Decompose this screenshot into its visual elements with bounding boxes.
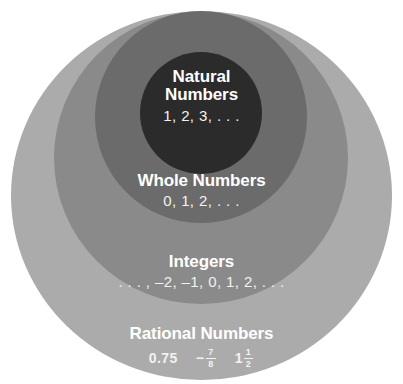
fraction: 78: [206, 348, 215, 369]
number-sets-diagram: Natural Numbers 1, 2, 3, . . . Whole Num…: [0, 0, 403, 384]
rational-example-decimal: 0.75: [149, 351, 178, 366]
label-whole-numbers: Whole Numbers 0, 1, 2, . . .: [0, 172, 403, 210]
label-rational-numbers: Rational Numbers 0.75−78112: [0, 325, 403, 369]
rational-example-fraction: −78: [196, 348, 217, 369]
label-natural-numbers: Natural Numbers 1, 2, 3, . . .: [0, 68, 403, 124]
label-integers-title: Integers: [0, 253, 403, 271]
rational-example-mixed-number: 112: [235, 348, 255, 369]
fraction-denominator: 2: [244, 359, 253, 369]
label-rational-numbers-examples: 0.75−78112: [0, 348, 403, 369]
rational-example-values: 0.75−78112: [140, 348, 263, 369]
fraction: 12: [244, 348, 253, 369]
label-integers: Integers . . . , –2, –1, 0, 1, 2, . . .: [0, 253, 403, 291]
fraction-numerator: 1: [244, 348, 253, 359]
label-rational-numbers-title: Rational Numbers: [0, 325, 403, 343]
label-whole-numbers-examples: 0, 1, 2, . . .: [0, 193, 403, 209]
label-whole-numbers-title: Whole Numbers: [0, 172, 403, 190]
mixed-number-whole-part: 1: [235, 351, 243, 366]
fraction-numerator: 7: [206, 348, 215, 359]
label-natural-numbers-title-line1: Natural: [0, 68, 403, 86]
minus-sign-icon: −: [196, 351, 205, 366]
label-natural-numbers-examples: 1, 2, 3, . . .: [0, 108, 403, 124]
label-integers-examples: . . . , –2, –1, 0, 1, 2, . . .: [0, 274, 403, 290]
label-natural-numbers-title-line2: Numbers: [0, 86, 403, 104]
fraction-denominator: 8: [206, 359, 215, 369]
